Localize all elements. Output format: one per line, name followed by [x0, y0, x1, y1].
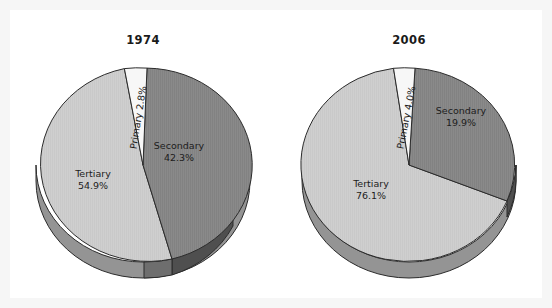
- pie-top-face-2006: [301, 68, 515, 262]
- pie-chart-1974: 1974: [10, 10, 276, 298]
- pie-top-face-1974: [41, 68, 253, 262]
- pie-chart-2006: 2006: [276, 10, 542, 298]
- chart-title-1974: 1974: [10, 33, 276, 47]
- pie-graphic-2006: Primary 4.0% Secondary 19.9% Tertiary 76…: [294, 50, 524, 280]
- chart-panel: 1974: [10, 10, 542, 298]
- pie-graphic-1974: Primary 2.8% Secondary 42.3% Tertiary 54…: [28, 50, 258, 280]
- chart-title-2006: 2006: [276, 33, 542, 47]
- screenshot-root: 1974: [0, 0, 552, 308]
- pie-svg-2006: [294, 50, 524, 280]
- pie-svg-1974: [28, 50, 258, 280]
